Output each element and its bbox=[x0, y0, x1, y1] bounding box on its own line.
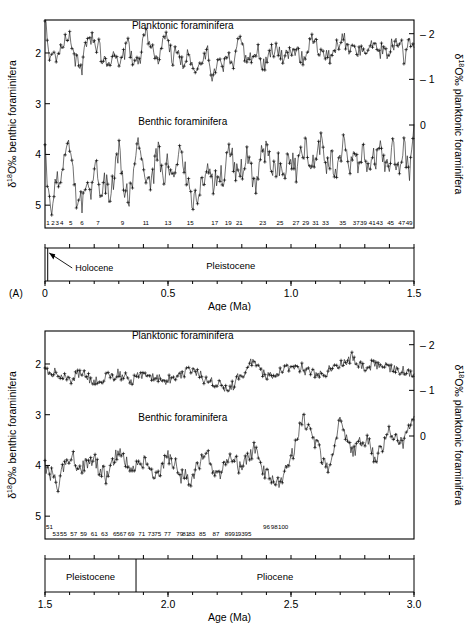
svg-text:31: 31 bbox=[312, 219, 319, 226]
svg-text:19: 19 bbox=[225, 219, 232, 226]
svg-text:27: 27 bbox=[292, 219, 299, 226]
svg-text:95: 95 bbox=[245, 530, 252, 537]
panel-a-label: (A) bbox=[9, 288, 23, 299]
svg-text:1.0: 1.0 bbox=[284, 287, 299, 299]
svg-text:5: 5 bbox=[35, 510, 41, 522]
svg-text:δ18O‰ benthic foraminifera: δ18O‰ benthic foraminifera bbox=[6, 371, 18, 499]
svg-text:35: 35 bbox=[339, 219, 346, 226]
svg-text:11: 11 bbox=[143, 219, 150, 226]
svg-text:100: 100 bbox=[278, 523, 289, 530]
svg-text:0.5: 0.5 bbox=[161, 287, 176, 299]
svg-text:δ18O‰ planktonic foraminifera: δ18O‰ planktonic foraminifera bbox=[453, 54, 465, 195]
svg-text:2.5: 2.5 bbox=[284, 598, 299, 610]
svg-text:39: 39 bbox=[360, 219, 367, 226]
svg-text:Benthic foraminifera: Benthic foraminifera bbox=[138, 116, 227, 127]
svg-text:67: 67 bbox=[120, 530, 127, 537]
svg-text:13: 13 bbox=[165, 219, 172, 226]
svg-text:5: 5 bbox=[69, 219, 73, 226]
svg-text:63: 63 bbox=[101, 530, 108, 537]
svg-text:69: 69 bbox=[128, 530, 135, 537]
svg-text:3.0: 3.0 bbox=[407, 598, 422, 610]
svg-text:4: 4 bbox=[35, 148, 41, 160]
panel-a: 2345– 2– 10Planktonic foraminiferaBenthi… bbox=[0, 0, 472, 311]
svg-text:δ18O‰ planktonic foraminifera: δ18O‰ planktonic foraminifera bbox=[453, 365, 465, 506]
panel-a-plot: 2345– 2– 10Planktonic foraminiferaBenthi… bbox=[0, 0, 472, 311]
svg-text:9: 9 bbox=[121, 219, 125, 226]
svg-text:0: 0 bbox=[420, 119, 426, 131]
svg-text:Planktonic foraminifera: Planktonic foraminifera bbox=[132, 20, 234, 31]
svg-text:37: 37 bbox=[353, 219, 360, 226]
svg-text:Benthic foraminifera: Benthic foraminifera bbox=[138, 412, 227, 423]
svg-text:59: 59 bbox=[80, 530, 87, 537]
svg-text:0: 0 bbox=[420, 430, 426, 442]
svg-text:45: 45 bbox=[387, 219, 394, 226]
svg-text:5: 5 bbox=[35, 199, 41, 211]
svg-text:0: 0 bbox=[42, 287, 48, 299]
svg-text:49: 49 bbox=[406, 219, 413, 226]
svg-text:– 1: – 1 bbox=[420, 73, 435, 85]
svg-text:4: 4 bbox=[60, 219, 64, 226]
svg-text:15: 15 bbox=[187, 219, 194, 226]
svg-text:2: 2 bbox=[35, 47, 41, 59]
svg-text:4: 4 bbox=[35, 459, 41, 471]
svg-text:2: 2 bbox=[35, 358, 41, 370]
svg-text:– 1: – 1 bbox=[420, 384, 435, 396]
svg-text:55: 55 bbox=[60, 530, 67, 537]
svg-text:77: 77 bbox=[164, 530, 171, 537]
svg-text:71: 71 bbox=[138, 530, 145, 537]
svg-text:– 2: – 2 bbox=[420, 28, 435, 40]
svg-text:33: 33 bbox=[322, 219, 329, 226]
svg-text:57: 57 bbox=[70, 530, 77, 537]
svg-text:1.5: 1.5 bbox=[38, 598, 53, 610]
svg-text:2: 2 bbox=[51, 219, 55, 226]
svg-text:1.5: 1.5 bbox=[407, 287, 422, 299]
svg-text:96: 96 bbox=[263, 523, 270, 530]
svg-text:61: 61 bbox=[91, 530, 98, 537]
svg-text:21: 21 bbox=[236, 219, 243, 226]
svg-text:Pleistocene: Pleistocene bbox=[206, 260, 255, 271]
svg-text:23: 23 bbox=[259, 219, 266, 226]
svg-text:Planktonic foraminifera: Planktonic foraminifera bbox=[132, 330, 234, 341]
svg-text:17: 17 bbox=[211, 219, 218, 226]
svg-text:41: 41 bbox=[369, 219, 376, 226]
panel-b: 2345– 2– 10Planktonic foraminiferaBenthi… bbox=[0, 311, 472, 623]
panel-b-plot: 2345– 2– 10Planktonic foraminiferaBenthi… bbox=[0, 311, 472, 623]
svg-text:87: 87 bbox=[213, 530, 220, 537]
svg-text:3: 3 bbox=[56, 219, 60, 226]
svg-text:43: 43 bbox=[376, 219, 383, 226]
svg-text:1: 1 bbox=[46, 219, 50, 226]
svg-text:75: 75 bbox=[154, 530, 161, 537]
svg-text:2.0: 2.0 bbox=[161, 598, 176, 610]
svg-text:3: 3 bbox=[35, 409, 41, 421]
svg-text:Age (Ma): Age (Ma) bbox=[208, 300, 251, 311]
svg-text:δ18O‰ benthic foraminifera: δ18O‰ benthic foraminifera bbox=[6, 60, 18, 188]
svg-text:Holocene: Holocene bbox=[75, 263, 113, 273]
svg-text:Age (Ma): Age (Ma) bbox=[208, 611, 251, 623]
svg-text:85: 85 bbox=[199, 530, 206, 537]
svg-text:7: 7 bbox=[96, 219, 100, 226]
svg-text:Pleistocene: Pleistocene bbox=[66, 571, 115, 582]
svg-text:29: 29 bbox=[302, 219, 309, 226]
svg-text:53: 53 bbox=[53, 530, 60, 537]
svg-text:25: 25 bbox=[276, 219, 283, 226]
svg-text:6: 6 bbox=[80, 219, 84, 226]
svg-text:– 2: – 2 bbox=[420, 339, 435, 351]
svg-text:3: 3 bbox=[35, 98, 41, 110]
svg-text:47: 47 bbox=[398, 219, 405, 226]
svg-text:83: 83 bbox=[188, 530, 195, 537]
svg-text:Pliocene: Pliocene bbox=[257, 571, 293, 582]
svg-text:51: 51 bbox=[46, 523, 53, 530]
